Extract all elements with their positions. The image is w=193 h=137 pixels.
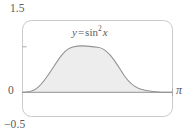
equation-exponent: 2: [98, 24, 102, 33]
figure-container: 1.5 0 −0.5 π y=sin2 x: [0, 0, 193, 137]
equation-variable: x: [103, 26, 108, 38]
y-axis-zero-label: 0: [8, 85, 14, 97]
curve-equation-label: y=sin2 x: [72, 26, 108, 38]
y-axis-max-label: 1.5: [10, 3, 25, 15]
y-axis-min-label: −0.5: [4, 119, 25, 131]
equation-function: sin: [85, 26, 98, 38]
area-fill: [23, 46, 173, 93]
x-axis-pi-label: π: [176, 84, 182, 96]
plot-area: [0, 0, 193, 137]
equation-equals: =: [77, 26, 85, 38]
